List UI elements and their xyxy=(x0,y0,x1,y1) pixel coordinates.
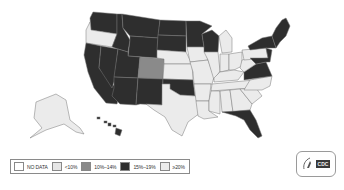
legend-label: <10% xyxy=(65,164,78,170)
legend-item-lt10: <10% xyxy=(52,162,78,171)
legend-swatch-lt10 xyxy=(52,162,62,171)
legend-label: ≥20% xyxy=(173,164,185,170)
map-legend: NO DATA <10% 10%–14% 15%–19% ≥20% xyxy=(10,159,190,174)
state-sd xyxy=(157,35,186,52)
legend-item-gte20: ≥20% xyxy=(160,162,185,171)
state-new-england xyxy=(272,18,290,48)
legend-item-15-19: 15%–19% xyxy=(120,162,155,171)
state-wi xyxy=(202,30,219,52)
state-co xyxy=(138,57,164,79)
legend-label: NO DATA xyxy=(27,164,48,170)
legend-swatch-gte20 xyxy=(160,162,170,171)
legend-label: 10%–14% xyxy=(94,164,116,170)
legend-label: 15%–19% xyxy=(133,164,155,170)
hhs-eagle-icon xyxy=(302,157,314,171)
state-in xyxy=(220,54,229,72)
cdc-wordmark: CDC xyxy=(316,160,331,168)
state-fl xyxy=(222,110,262,138)
legend-item-no-data: NO DATA xyxy=(14,162,48,171)
state-hi xyxy=(97,117,122,136)
cdc-logo: CDC xyxy=(296,151,336,177)
state-nm xyxy=(136,78,163,105)
legend-swatch-10-14 xyxy=(81,162,91,171)
state-ny xyxy=(248,36,276,50)
state-nd xyxy=(158,20,186,36)
state-ar xyxy=(194,84,211,101)
state-ms xyxy=(209,91,220,114)
state-ks xyxy=(163,64,193,80)
state-ak xyxy=(30,94,84,138)
legend-swatch-no-data xyxy=(14,162,24,171)
legend-swatch-15-19 xyxy=(120,162,130,171)
state-wy xyxy=(128,36,158,58)
state-mi xyxy=(219,30,232,53)
state-mt xyxy=(122,14,160,38)
us-choropleth-map xyxy=(0,0,344,152)
legend-item-10-14: 10%–14% xyxy=(81,162,116,171)
